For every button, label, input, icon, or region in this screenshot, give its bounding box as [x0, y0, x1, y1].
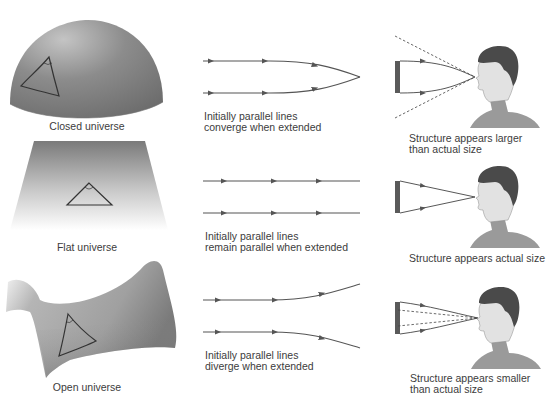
observer-actual: [395, 181, 475, 213]
observer-caption-larger-2: than actual size: [409, 144, 482, 155]
observer-smaller: [395, 302, 478, 334]
converging-lines: [203, 61, 360, 93]
structure-bar: [395, 302, 400, 334]
diverging-lines: [203, 284, 360, 348]
person-profile-icon: [471, 287, 541, 369]
surface-label-closed: Closed universe: [49, 121, 124, 132]
lines-caption-diverge-2: diverge when extended: [205, 361, 314, 372]
structure-bar: [395, 61, 400, 93]
structure-bar: [395, 181, 400, 213]
closed-universe-dome: [10, 20, 163, 118]
person-profile-icon: [470, 46, 540, 128]
surface-label-open: Open universe: [53, 382, 121, 393]
flat-universe-plane: [10, 141, 168, 230]
observer-caption-actual-1: Structure appears actual size: [409, 253, 545, 264]
lines-caption-parallel-2: remain parallel when extended: [205, 242, 348, 253]
person-profile-icon: [470, 166, 540, 248]
parallel-lines: [203, 181, 360, 213]
surface-label-flat: Flat universe: [57, 242, 117, 253]
observer-larger: [395, 36, 475, 118]
observer-caption-smaller-2: than actual size: [410, 384, 483, 395]
lines-caption-converge-2: converge when extended: [204, 122, 321, 133]
open-universe-saddle: [6, 261, 176, 378]
